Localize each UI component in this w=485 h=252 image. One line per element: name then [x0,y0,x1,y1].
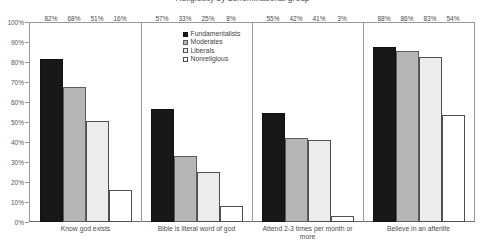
bar: 86% [396,51,419,222]
y-axis-tick-label: 80% [11,59,24,66]
x-axis-category-label: Attend 2-3 times per month or more [252,225,363,242]
bar-slot: 51% [86,23,109,222]
bar-value-label: 16% [113,15,126,22]
bar: 25% [197,172,220,222]
x-axis-labels: Know god existsBible is literal word of … [30,225,474,242]
bar-slot: 3% [331,23,354,222]
bar-value-label: 54% [446,15,459,22]
bar-value-label: 25% [201,15,214,22]
bar-slot: 55% [262,23,285,222]
bar-value-label: 55% [266,15,279,22]
bar-group: 88%86%83%54% [363,23,474,222]
legend-item[interactable]: Moderates [183,39,240,46]
bar-value-label: 42% [289,15,302,22]
bar: 33% [174,156,197,222]
bar-chart: Religiosity by denominational group 100%… [0,0,485,252]
bar-value-label: 86% [400,15,413,22]
y-axis-tick-label: 0% [15,219,24,226]
y-axis-tick-label: 90% [11,39,24,46]
bar-value-label: 51% [90,15,103,22]
bar-group: 82%68%51%16% [30,23,141,222]
bar-value-label: 57% [155,15,168,22]
bar-value-label: 3% [337,15,346,22]
y-axis-tick [25,222,29,223]
bar-groups: 82%68%51%16%57%33%25%8%55%42%41%3%88%86%… [30,23,474,222]
bar: 51% [86,121,109,222]
bar-slot: 16% [109,23,132,222]
y-axis-tick-label: 100% [7,19,24,26]
y-axis-tick-label: 10% [11,199,24,206]
bar-slot: 42% [285,23,308,222]
bar: 3% [331,216,354,222]
bar-slot: 83% [419,23,442,222]
bar-value-label: 41% [312,15,325,22]
legend-item[interactable]: Nonreligious [183,56,240,63]
x-axis-category-label: Bible is literal word of god [141,225,252,242]
y-axis-tick-label: 20% [11,179,24,186]
bar-slot: 41% [308,23,331,222]
bar-slot: 86% [396,23,419,222]
chart-title-clipped: Religiosity by denominational group [0,0,485,5]
bar-value-label: 82% [44,15,57,22]
bar: 88% [373,47,396,222]
bar-value-label: 88% [377,15,390,22]
bar: 54% [442,115,465,222]
y-axis-tick-label: 70% [11,79,24,86]
bar-group: 55%42%41%3% [252,23,363,222]
bar-value-label: 8% [226,15,235,22]
legend-label: Nonreligious [191,56,229,63]
legend-swatch-icon [183,57,188,62]
legend-swatch-icon [183,40,188,45]
legend-item[interactable]: Fundamentalists [183,31,240,38]
bar-slot: 82% [40,23,63,222]
x-axis-category-label: Believe in an afterlife [363,225,474,242]
legend-swatch-icon [183,48,188,53]
bar-cluster: 82%68%51%16% [40,23,132,222]
legend-label: Moderates [191,39,223,46]
chart-legend: FundamentalistsModeratesLiberalsNonrelig… [183,31,240,63]
bar: 83% [419,57,442,222]
bar: 82% [40,59,63,222]
bar: 57% [151,109,174,222]
bar-value-label: 68% [67,15,80,22]
y-axis-tick-label: 30% [11,159,24,166]
y-axis-tick-label: 50% [11,119,24,126]
bar-cluster: 88%86%83%54% [373,23,465,222]
x-axis-category-label: Know god exists [30,225,141,242]
bar: 41% [308,140,331,222]
bar: 16% [109,190,132,222]
bar: 55% [262,113,285,222]
bar-slot: 54% [442,23,465,222]
legend-swatch-icon [183,32,188,37]
bar-slot: 57% [151,23,174,222]
y-axis-tick-label: 40% [11,139,24,146]
bar-slot: 68% [63,23,86,222]
bar: 42% [285,138,308,222]
bar: 68% [63,87,86,222]
y-axis-tick-label: 60% [11,99,24,106]
legend-item[interactable]: Liberals [183,48,240,55]
bar: 8% [220,206,243,222]
bar-value-label: 33% [178,15,191,22]
y-axis: 100%90%80%70%60%50%40%30%20%10%0% [0,0,29,252]
legend-label: Liberals [191,48,215,55]
legend-label: Fundamentalists [191,31,241,38]
bar-cluster: 55%42%41%3% [262,23,354,222]
bar-slot: 88% [373,23,396,222]
bar-value-label: 83% [423,15,436,22]
